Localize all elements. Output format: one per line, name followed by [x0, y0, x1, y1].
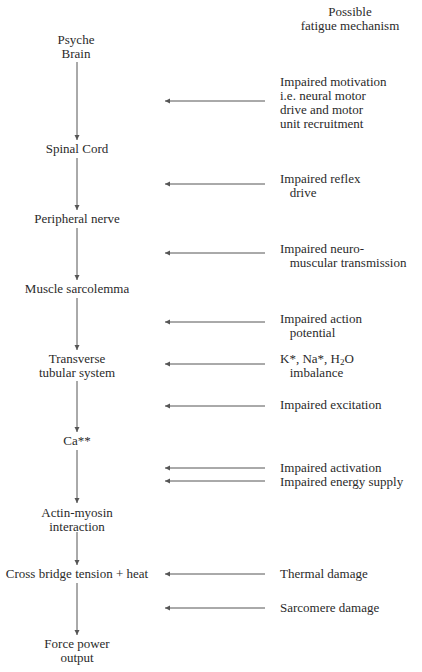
diagram-arrows — [0, 0, 422, 672]
